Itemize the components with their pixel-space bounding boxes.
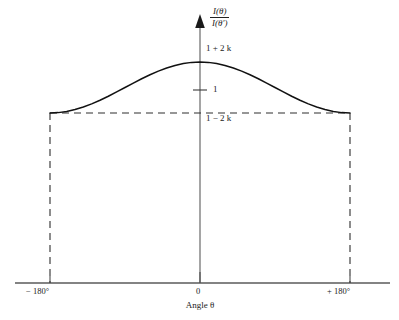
y-tick-label-bottom: 1 − 2 k: [206, 114, 231, 123]
y-axis-label-denominator: I(θ′): [210, 18, 229, 28]
y-tick-label-top: 1 + 2 k: [206, 44, 231, 53]
x-tick-label-minus180: − 180°: [26, 287, 49, 296]
intensity-vs-angle-chart: [0, 0, 399, 320]
x-tick-label-plus180: + 180°: [327, 287, 350, 296]
y-axis-label-numerator: I(θ): [210, 7, 229, 18]
x-axis-title: Angle θ: [167, 301, 233, 310]
y-tick-label-mid: 1: [213, 85, 218, 94]
y-axis-label: I(θ) I(θ′): [210, 7, 229, 28]
x-tick-label-zero: 0: [196, 287, 200, 296]
